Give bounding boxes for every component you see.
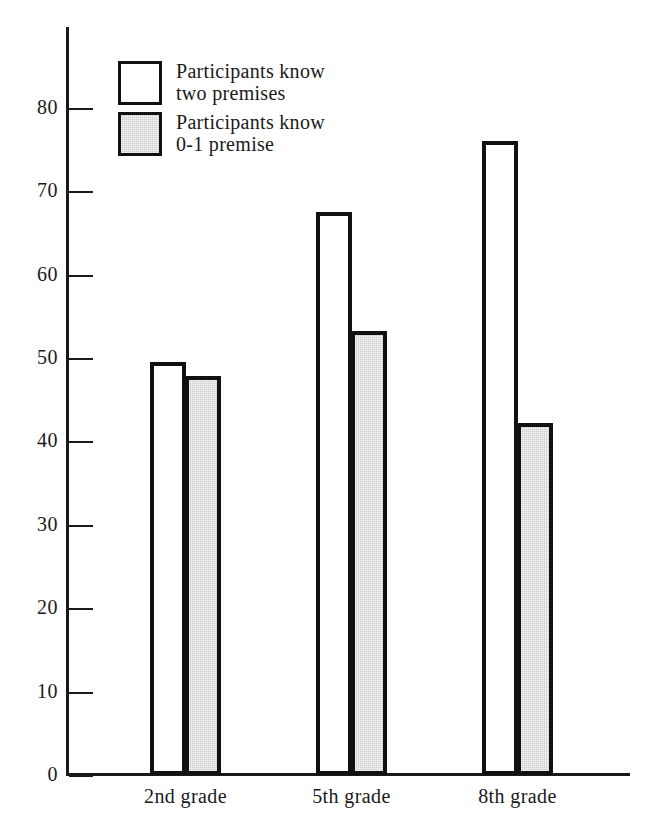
bar-chart: 01020304050607080 2nd grade5th grade8th … bbox=[0, 0, 647, 822]
legend-item-zero-one-premise: Participants know 0-1 premise bbox=[118, 111, 358, 156]
legend-swatch-shaded-square bbox=[118, 112, 162, 156]
legend-label-zero-one-premise: Participants know 0-1 premise bbox=[176, 111, 325, 156]
bar bbox=[482, 141, 518, 775]
x-axis-label-8th-grade: 8th grade bbox=[458, 785, 578, 808]
legend-label-line2: 0-1 premise bbox=[176, 133, 325, 155]
legend-swatch-white-square bbox=[118, 61, 162, 105]
legend-item-two-premises: Participants know two premises bbox=[118, 60, 358, 105]
bar bbox=[517, 423, 553, 775]
chart-legend: Participants know two premises Participa… bbox=[118, 60, 358, 162]
x-axis-label-2nd-grade: 2nd grade bbox=[126, 785, 246, 808]
legend-label-line1: Participants know bbox=[176, 60, 325, 82]
bar bbox=[316, 212, 352, 775]
bar bbox=[150, 362, 186, 775]
bar bbox=[185, 376, 221, 775]
legend-label-line1: Participants know bbox=[176, 111, 325, 133]
x-axis-label-5th-grade: 5th grade bbox=[292, 785, 412, 808]
bar bbox=[351, 331, 387, 775]
legend-label-line2: two premises bbox=[176, 82, 325, 104]
legend-label-two-premises: Participants know two premises bbox=[176, 60, 325, 105]
